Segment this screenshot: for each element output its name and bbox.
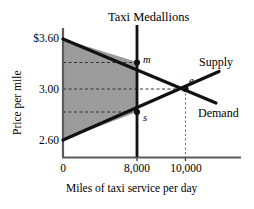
point-e-marker	[182, 86, 188, 92]
x-axis-title: Miles of taxi service per day	[66, 183, 197, 195]
y-axis-title: Price per mile	[12, 70, 24, 135]
point-e-label: e	[189, 76, 194, 87]
x-tick-label-0: 0	[52, 163, 74, 175]
x-tick-label-8000: 8,000	[112, 163, 162, 175]
y-tick-label-360: $3.60	[17, 33, 59, 45]
demand-curve-label: Demand	[198, 107, 239, 119]
x-tick-label-10000: 10,000	[159, 163, 213, 175]
y-tick-label-260: 2.60	[17, 135, 59, 147]
chart-figure: Taxi Medallions $3.60 3.00 2.60 Price pe…	[0, 0, 254, 209]
supply-curve-label: Supply	[199, 56, 233, 68]
chart-title: Taxi Medallions	[108, 11, 189, 24]
point-s-label: s	[143, 113, 147, 124]
point-s-marker	[134, 109, 140, 115]
point-m-marker	[134, 59, 140, 65]
point-m-label: m	[143, 55, 151, 66]
